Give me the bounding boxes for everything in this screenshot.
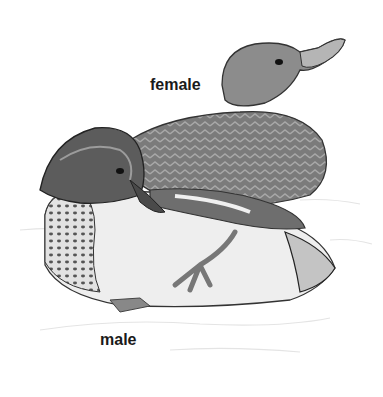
duck-illustration: female male [0, 0, 383, 397]
ducks-drawing [0, 0, 383, 397]
male-head [40, 128, 144, 204]
male-eye [116, 168, 124, 174]
male-label: male [100, 331, 136, 349]
female-duck [130, 39, 345, 206]
female-label: female [150, 76, 201, 94]
female-bill [300, 39, 345, 67]
female-eye [275, 59, 283, 65]
